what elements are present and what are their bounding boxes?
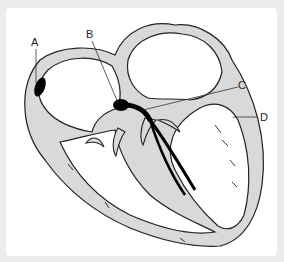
label-b: B	[86, 29, 93, 40]
label-c: C	[238, 80, 246, 91]
label-a: A	[31, 37, 38, 48]
label-d: D	[260, 112, 268, 123]
heart-diagram	[0, 0, 284, 262]
